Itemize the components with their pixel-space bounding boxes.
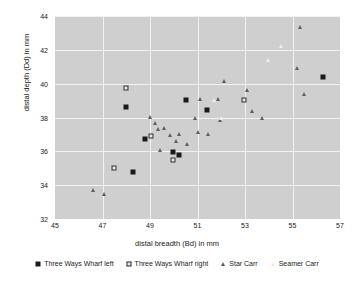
data-point <box>131 169 136 174</box>
legend-marker-icon <box>220 261 226 267</box>
data-point <box>170 150 175 155</box>
data-point <box>196 130 200 134</box>
data-point <box>219 116 223 120</box>
data-point <box>206 132 210 136</box>
data-point <box>205 107 210 112</box>
x-tick-label: 45 <box>51 222 59 229</box>
data-point <box>177 132 181 136</box>
data-point <box>222 79 226 83</box>
data-point <box>153 121 157 125</box>
chart-legend: Three Ways Wharf leftThree Ways Wharf ri… <box>0 260 354 267</box>
x-tick-label: 47 <box>99 222 107 229</box>
legend-item[interactable]: Star Carr <box>220 260 257 267</box>
data-point <box>143 136 148 141</box>
data-point <box>245 88 249 92</box>
data-point <box>102 192 106 196</box>
data-point <box>260 116 264 120</box>
data-point <box>198 97 202 101</box>
y-tick-label: 36 <box>26 148 48 155</box>
data-point <box>295 66 299 70</box>
data-point <box>158 148 162 152</box>
gridline-horizontal <box>55 50 340 51</box>
x-tick-label: 49 <box>146 222 154 229</box>
data-point <box>170 157 175 162</box>
legend-item-label: Seamer Carr <box>279 260 319 267</box>
data-point <box>148 115 152 119</box>
gridline-horizontal <box>55 16 340 17</box>
gridline-horizontal <box>55 151 340 152</box>
data-point <box>298 25 302 29</box>
data-point <box>302 92 306 96</box>
data-point <box>149 134 154 139</box>
legend-item[interactable]: Three Ways Wharf right <box>126 260 209 267</box>
data-point <box>216 97 220 101</box>
data-point <box>250 109 254 113</box>
legend-item[interactable]: Seamer Carr <box>270 260 319 267</box>
data-point <box>266 58 270 62</box>
y-tick-label: 32 <box>26 216 48 223</box>
data-point <box>183 97 188 102</box>
data-point <box>112 166 117 171</box>
x-tick-label: 57 <box>336 222 344 229</box>
x-tick-label: 55 <box>289 222 297 229</box>
data-point <box>193 116 197 120</box>
legend-marker-icon <box>270 261 276 267</box>
data-point <box>168 133 172 137</box>
legend-marker-icon <box>35 261 41 267</box>
data-point <box>176 152 181 157</box>
legend-item-label: Star Carr <box>229 260 257 267</box>
x-tick-label: 53 <box>241 222 249 229</box>
data-point <box>241 97 246 102</box>
data-point <box>212 98 216 102</box>
data-point <box>279 44 283 48</box>
x-axis-title: distal breadth (Bd) in mm <box>0 239 354 248</box>
legend-item-label: Three Ways Wharf right <box>135 260 209 267</box>
legend-marker-icon <box>126 261 132 267</box>
legend-item[interactable]: Three Ways Wharf left <box>35 260 113 267</box>
x-tick-label: 51 <box>194 222 202 229</box>
y-tick-label: 34 <box>26 182 48 189</box>
scatter-plot-figure: 45474951535557 32343638404244 distal bre… <box>0 0 354 283</box>
plot-area <box>55 16 340 219</box>
data-point <box>124 105 129 110</box>
data-point <box>321 74 326 79</box>
gridline-horizontal <box>55 84 340 85</box>
gridline-horizontal <box>55 118 340 119</box>
gridline-horizontal <box>55 185 340 186</box>
data-point <box>156 127 160 131</box>
data-point <box>185 142 189 146</box>
y-axis-title: distal depth (Dd) in mm <box>22 3 31 143</box>
data-point <box>174 139 178 143</box>
data-point <box>162 126 166 130</box>
legend-item-label: Three Ways Wharf left <box>44 260 113 267</box>
data-point <box>91 188 95 192</box>
data-point <box>124 85 129 90</box>
